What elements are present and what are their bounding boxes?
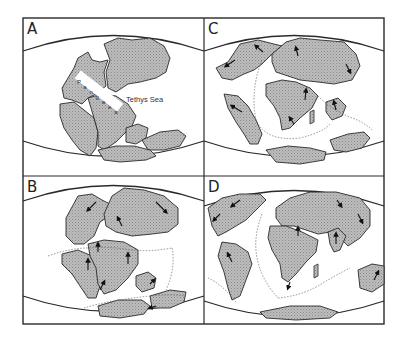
continental-drift-figure: A Pangaea Tethys Sea C xyxy=(0,0,408,346)
landmass-eurasia xyxy=(104,188,178,236)
landmass-madagascar xyxy=(314,264,318,278)
ridge-line xyxy=(318,96,372,130)
landmass-eurasia xyxy=(272,38,360,84)
panel-label-d: D xyxy=(208,178,220,196)
landmass-australia xyxy=(142,130,186,150)
landmass-australia xyxy=(330,132,370,152)
panel-d: D xyxy=(204,178,384,320)
motion-arrow xyxy=(288,282,290,288)
panel-label-b: B xyxy=(27,178,37,196)
landmass-australia xyxy=(358,264,384,292)
landmass-madagascar xyxy=(310,110,314,124)
panel-label-a: A xyxy=(27,20,38,38)
landmass-eurasia xyxy=(104,38,170,92)
landmass-south-america xyxy=(218,242,252,300)
pangaea-letter: g xyxy=(96,94,99,100)
landmass-antarctica xyxy=(260,306,338,320)
landmass-africa xyxy=(268,226,318,282)
landmass-south-america xyxy=(224,94,262,144)
landmass-antarctica xyxy=(266,146,326,164)
panel-a: A Pangaea Tethys Sea xyxy=(23,20,204,162)
landmass-australia xyxy=(150,290,186,308)
landmass-antarctica xyxy=(98,300,150,318)
pangaea-letter: n xyxy=(89,89,92,95)
panel-c: C xyxy=(204,20,384,164)
panel-label-c: C xyxy=(208,20,218,38)
pangaea-letter: P xyxy=(77,79,81,85)
landmass-india xyxy=(136,272,156,292)
panel-b: B xyxy=(23,178,204,318)
rift-line xyxy=(166,248,173,290)
tethys-sea-label: Tethys Sea xyxy=(126,95,164,104)
